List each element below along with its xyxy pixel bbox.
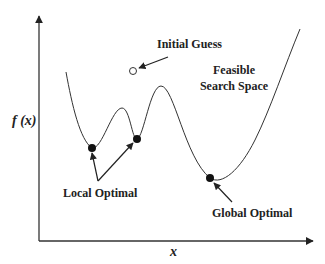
local-arrow-2 — [98, 143, 133, 181]
local-optimum-marker-1 — [88, 144, 96, 152]
initial-guess-label: Initial Guess — [157, 38, 222, 50]
feasible-label-line2: Search Space — [183, 80, 285, 92]
global-optimum-marker — [206, 174, 214, 182]
local-optimal-label: Local Optimal — [63, 187, 137, 199]
objective-curve — [66, 29, 300, 180]
y-axis-label: f (x) — [12, 114, 37, 128]
global-optimal-label: Global Optimal — [212, 207, 292, 219]
local-arrow-1 — [92, 153, 98, 181]
local-optimum-marker-2 — [133, 135, 141, 143]
optimization-landscape-diagram: f (x) x Initial Guess Feasible Search Sp… — [0, 0, 325, 264]
x-axis-label: x — [170, 245, 177, 259]
global-arrow — [214, 183, 232, 202]
initial-guess-marker — [130, 68, 137, 75]
feasible-label-line1: Feasible — [200, 64, 268, 76]
initial-guess-arrow — [139, 57, 168, 68]
